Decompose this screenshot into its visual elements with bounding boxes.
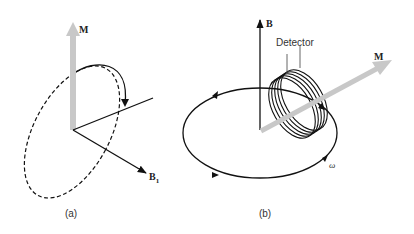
- b-label: B: [266, 18, 273, 29]
- m-vector-arrowhead-icon: [66, 22, 80, 36]
- orbit-arrowhead-icon: [212, 172, 219, 178]
- m-label: M: [374, 51, 384, 62]
- m-label: M: [79, 24, 89, 35]
- detector-label: Detector: [276, 37, 314, 48]
- caption-b: (b): [259, 208, 271, 219]
- panel-a: M B1 (a): [5, 22, 160, 219]
- orbit-arrowhead-icon: [322, 155, 328, 162]
- caption-a: (a): [65, 208, 77, 219]
- detector-coil: [259, 62, 337, 146]
- m-vector-shaft: [70, 34, 76, 130]
- diagram-canvas: M B1 (a) B Detector M ω (b): [0, 0, 414, 234]
- arc-arrowhead-icon: [121, 99, 129, 107]
- panel-b: B Detector M ω (b): [183, 18, 392, 219]
- b1-vector: [73, 130, 146, 173]
- omega-label: ω: [329, 160, 335, 170]
- precession-arc: [73, 65, 125, 104]
- b1-label: B1: [149, 171, 160, 185]
- axis-line: [73, 98, 153, 130]
